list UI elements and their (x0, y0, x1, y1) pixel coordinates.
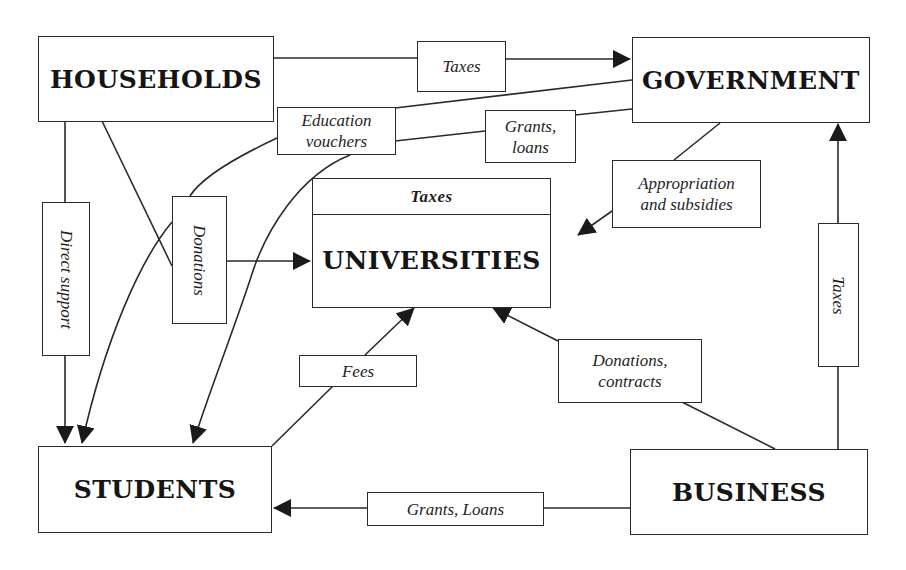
students-box: STUDENTS (38, 446, 272, 533)
universities-label: UNIVERSITIES (322, 246, 541, 275)
flow-education-vouchers: Education vouchers (277, 107, 396, 155)
flow-donations-contracts: Donations, contracts (558, 339, 702, 403)
flow-appropriation-subsidies: Appropriation and subsidies (612, 160, 761, 228)
households-label: HOUSEHOLDS (50, 65, 262, 94)
flow-fees: Fees (299, 355, 417, 387)
universities-taxes-label: Taxes (410, 186, 453, 207)
flow-label-line1: Grants, (505, 116, 556, 137)
edge-donations-contracts (682, 402, 775, 449)
flow-label-line1: Donations, (592, 350, 667, 371)
government-box: GOVERNMENT (632, 37, 870, 123)
flow-label-text: Direct support (56, 229, 77, 328)
flow-label-line1: Appropriation (638, 173, 735, 194)
funding-flow-diagram: HOUSEHOLDS GOVERNMENT Taxes UNIVERSITIES… (0, 0, 906, 570)
flow-label-line2: contracts (598, 371, 661, 392)
universities-taxes-band: Taxes (313, 179, 550, 215)
flow-households-government-taxes: Taxes (417, 41, 506, 92)
flow-business-taxes: Taxes (818, 223, 859, 367)
flow-label-text: Donations (189, 225, 210, 296)
flow-label-text: Taxes (442, 56, 480, 77)
business-box: BUSINESS (630, 449, 868, 535)
flow-label-text: Fees (342, 361, 374, 382)
flow-direct-support: Direct support (42, 202, 90, 356)
flow-label-line2: and subsidies (640, 194, 732, 215)
edge-fees (272, 386, 333, 446)
households-box: HOUSEHOLDS (38, 36, 274, 122)
universities-name-area: UNIVERSITIES (313, 214, 550, 307)
flow-label-text: Grants, Loans (407, 499, 504, 520)
business-label: BUSINESS (672, 478, 826, 507)
flow-grants-loans-business: Grants, Loans (367, 492, 544, 526)
flow-label-line1: Education (302, 110, 372, 131)
edge-appropriation (674, 123, 720, 160)
universities-box: Taxes UNIVERSITIES (312, 178, 551, 308)
edge-donations-households (102, 121, 172, 266)
edge-grants-loans-gov (575, 109, 632, 115)
flow-donations-households: Donations (172, 196, 227, 324)
flow-grants-loans-government: Grants, loans (485, 110, 576, 163)
government-label: GOVERNMENT (642, 66, 860, 95)
flow-label-line2: loans (512, 137, 549, 158)
flow-label-text: Taxes (828, 276, 849, 314)
flow-label-line2: vouchers (306, 131, 367, 152)
students-label: STUDENTS (74, 475, 237, 504)
